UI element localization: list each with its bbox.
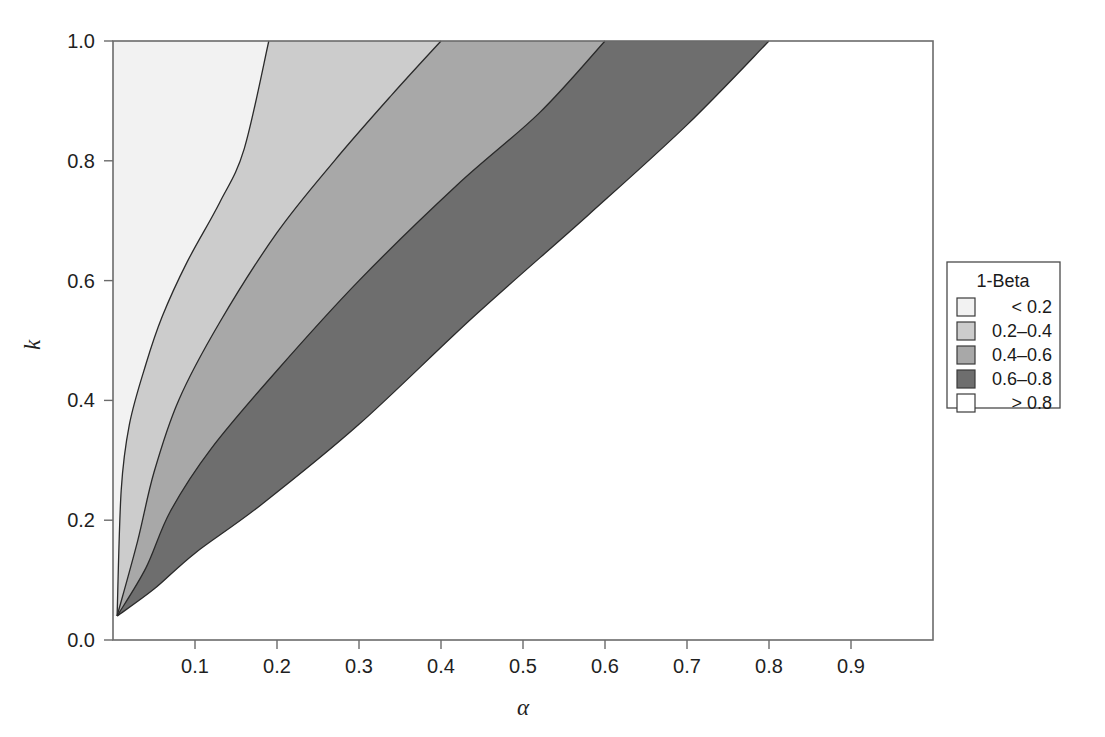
legend-label: > 0.8	[1011, 393, 1052, 413]
legend-label: 0.6–0.8	[992, 369, 1052, 389]
legend-swatch	[957, 298, 975, 316]
legend-label: < 0.2	[1011, 297, 1052, 317]
chart-svg: 0.10.20.30.40.50.60.70.80.9 0.00.20.40.6…	[0, 0, 1105, 737]
x-tick-label: 0.8	[755, 655, 783, 677]
y-tick-label: 0.0	[67, 629, 95, 651]
x-tick-label: 0.3	[345, 655, 373, 677]
x-tick-label: 0.5	[509, 655, 537, 677]
legend-swatch	[957, 346, 975, 364]
legend-label: 0.4–0.6	[992, 345, 1052, 365]
x-tick-label: 0.9	[837, 655, 865, 677]
y-tick-label: 0.6	[67, 270, 95, 292]
x-tick-label: 0.6	[591, 655, 619, 677]
x-tick-label: 0.4	[427, 655, 455, 677]
legend-swatch	[957, 322, 975, 340]
x-axis-ticks: 0.10.20.30.40.50.60.70.80.9	[181, 640, 865, 677]
legend: 1-Beta < 0.20.2–0.40.4–0.60.6–0.8> 0.8	[947, 262, 1060, 413]
y-tick-label: 0.2	[67, 509, 95, 531]
y-axis-title: k	[20, 339, 45, 350]
y-axis-ticks: 0.00.20.40.60.81.0	[67, 30, 113, 651]
x-tick-label: 0.1	[181, 655, 209, 677]
y-tick-label: 0.8	[67, 150, 95, 172]
y-tick-label: 0.4	[67, 389, 95, 411]
x-tick-label: 0.7	[673, 655, 701, 677]
x-tick-label: 0.2	[263, 655, 291, 677]
legend-title: 1-Beta	[976, 271, 1030, 291]
legend-label: 0.2–0.4	[992, 321, 1052, 341]
y-tick-label: 1.0	[67, 30, 95, 52]
x-axis-title: α	[517, 695, 530, 720]
legend-swatch	[957, 370, 975, 388]
legend-swatch	[957, 394, 975, 412]
contour-plot-figure: 0.10.20.30.40.50.60.70.80.9 0.00.20.40.6…	[0, 0, 1105, 737]
